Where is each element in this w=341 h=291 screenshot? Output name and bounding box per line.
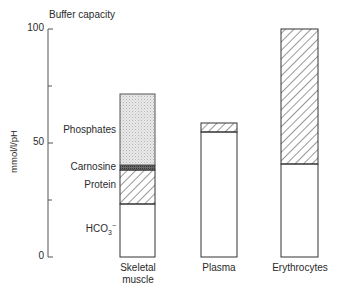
bar-plasma bbox=[201, 123, 237, 257]
segment-phosphates bbox=[120, 94, 155, 165]
segment-label-hco3: HCO3− bbox=[56, 222, 116, 236]
y-tick-100: 100 bbox=[14, 22, 44, 33]
y-axis bbox=[48, 29, 53, 257]
bar-skeletal-muscle bbox=[120, 94, 155, 257]
segment-protein bbox=[281, 29, 318, 164]
y-tick-50: 50 bbox=[14, 136, 44, 147]
segment-hco3 bbox=[120, 204, 155, 257]
segment-label-protein: Protein bbox=[56, 179, 116, 190]
segment-label-phosphates: Phosphates bbox=[56, 124, 116, 135]
category-label-erythrocytes: Erythrocytes bbox=[264, 262, 336, 274]
segment-carnosine bbox=[120, 165, 155, 170]
segment-protein bbox=[201, 123, 237, 132]
category-label-plasma: Plasma bbox=[194, 262, 244, 274]
chart-title: Buffer capacity bbox=[49, 9, 115, 20]
segment-label-carnosine: Carnosine bbox=[56, 161, 116, 172]
segment-hco3 bbox=[281, 164, 318, 257]
chart-canvas bbox=[0, 0, 341, 291]
bar-erythrocytes bbox=[281, 29, 318, 257]
y-tick-0: 0 bbox=[14, 250, 44, 261]
y-axis-label: mmol/l/pH bbox=[8, 127, 19, 177]
segment-protein bbox=[120, 170, 155, 204]
segment-hco3 bbox=[201, 132, 237, 257]
category-label-skeletal-muscle: Skeletal muscle bbox=[112, 262, 164, 286]
